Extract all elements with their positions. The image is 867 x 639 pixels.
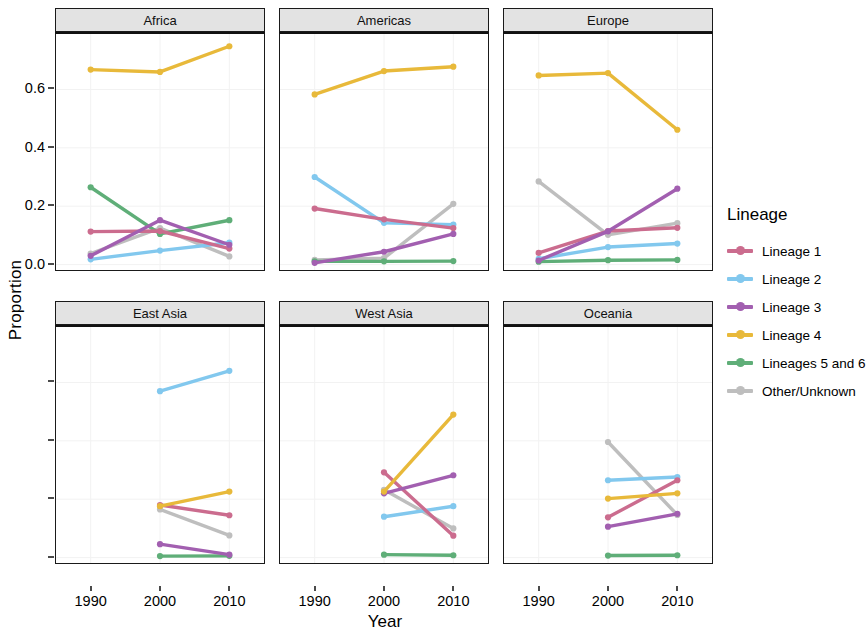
legend-item-label: Lineage 3: [762, 300, 821, 315]
y-tick-mark: [48, 556, 54, 558]
chart-figure: Proportion 0.00.20.40.6 Africa Americas …: [0, 0, 867, 639]
data-point: [450, 258, 456, 264]
data-point: [605, 70, 611, 76]
legend-item[interactable]: Other/Unknown: [727, 379, 867, 403]
data-point: [605, 257, 611, 263]
legend-key-icon: [727, 298, 753, 316]
data-point: [381, 489, 387, 495]
data-point: [157, 541, 163, 547]
data-point: [536, 257, 542, 263]
legend-item[interactable]: Lineage 2: [727, 267, 867, 291]
facet-label: Europe: [587, 13, 629, 28]
y-tick-mark: [48, 146, 54, 148]
plot-svg: [280, 34, 488, 271]
x-tick-mark: [538, 586, 540, 591]
plot-svg: [504, 327, 712, 564]
series-line: [384, 415, 453, 492]
y-axis-ticks: 0.00.20.40.6: [0, 0, 55, 600]
data-point: [450, 225, 456, 231]
facet-strip-east-asia: East Asia: [55, 301, 265, 325]
data-point: [226, 368, 232, 374]
legend-item-label: Lineage 4: [762, 328, 821, 343]
data-point: [674, 240, 680, 246]
series-line: [608, 514, 677, 527]
facet-panel-africa: Africa: [55, 8, 265, 290]
x-tick-label: 2010: [213, 593, 245, 609]
plot-area-africa: [55, 32, 265, 271]
data-point: [157, 217, 163, 223]
data-point: [157, 553, 163, 559]
data-point: [226, 253, 232, 259]
facet-panel-europe: Europe: [503, 8, 713, 290]
x-tick-label: 1990: [75, 593, 107, 609]
data-point: [605, 496, 611, 502]
x-tick-mark: [607, 586, 609, 591]
legend-item-label: Other/Unknown: [762, 384, 856, 399]
data-point: [88, 184, 94, 190]
legend-item-label: Lineage 2: [762, 272, 821, 287]
legend: Lineage Lineage 1Lineage 2Lineage 3Linea…: [727, 205, 867, 407]
plot-svg: [504, 34, 712, 271]
legend-item[interactable]: Lineage 4: [727, 323, 867, 347]
data-point: [605, 514, 611, 520]
legend-item[interactable]: Lineages 5 and 6: [727, 351, 867, 375]
plot-area-west-asia: [279, 325, 489, 564]
series-line: [160, 371, 229, 391]
legend-key-icon: [727, 242, 753, 260]
legend-item-label: Lineages 5 and 6: [762, 356, 866, 371]
x-tick-mark: [90, 586, 92, 591]
data-point: [674, 225, 680, 231]
data-point: [226, 43, 232, 49]
x-axis-title: Year: [55, 612, 715, 632]
legend-item[interactable]: Lineage 3: [727, 295, 867, 319]
legend-key-icon: [727, 382, 753, 400]
data-point: [450, 64, 456, 70]
x-tick-label: 2000: [368, 593, 400, 609]
legend-item[interactable]: Lineage 1: [727, 239, 867, 263]
data-point: [226, 489, 232, 495]
y-tick-mark: [48, 87, 54, 89]
data-point: [605, 244, 611, 250]
data-point: [312, 260, 318, 266]
data-point: [605, 524, 611, 530]
facet-strip-americas: Americas: [279, 8, 489, 32]
y-tick-mark: [48, 263, 54, 265]
facet-panel-oceania: Oceania: [503, 301, 713, 583]
data-point: [226, 552, 232, 558]
data-point: [381, 469, 387, 475]
x-tick-mark: [383, 586, 385, 591]
data-point: [157, 388, 163, 394]
data-point: [157, 247, 163, 253]
data-point: [381, 514, 387, 520]
data-point: [226, 532, 232, 538]
facet-label: Americas: [357, 13, 411, 28]
data-point: [450, 552, 456, 558]
x-tick-label: 2010: [661, 593, 693, 609]
data-point: [88, 229, 94, 235]
data-point: [605, 477, 611, 483]
x-axis-title-text: Year: [368, 612, 402, 631]
x-tick-mark: [228, 586, 230, 591]
y-tick-mark: [48, 439, 54, 441]
legend-key-icon: [727, 326, 753, 344]
y-tick-label: 0.0: [25, 256, 45, 272]
x-tick-mark: [314, 586, 316, 591]
data-point: [450, 503, 456, 509]
y-tick-mark: [48, 497, 54, 499]
facet-label: Oceania: [584, 306, 632, 321]
data-point: [312, 91, 318, 97]
facet-panel-west-asia: West Asia: [279, 301, 489, 583]
x-tick-group: 199020002010: [279, 586, 489, 612]
data-point: [381, 249, 387, 255]
x-tick-label: 1990: [523, 593, 555, 609]
plot-area-europe: [503, 32, 713, 271]
y-tick-label: 0.6: [25, 80, 45, 96]
data-point: [312, 205, 318, 211]
data-point: [536, 178, 542, 184]
x-tick-mark: [159, 586, 161, 591]
facet-label: West Asia: [355, 306, 413, 321]
plot-area-east-asia: [55, 325, 265, 564]
data-point: [674, 477, 680, 483]
legend-items: Lineage 1Lineage 2Lineage 3Lineage 4Line…: [727, 239, 867, 403]
x-tick-mark: [452, 586, 454, 591]
